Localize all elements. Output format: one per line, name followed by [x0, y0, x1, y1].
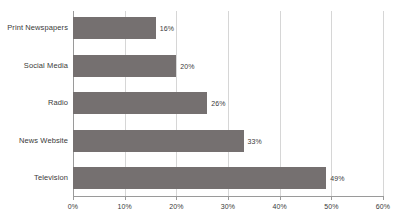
bar-row: 20%	[73, 55, 383, 77]
x-axis-tick	[331, 196, 332, 200]
bar-value-label: 16%	[160, 25, 174, 32]
bar-value-label: 33%	[248, 137, 262, 144]
bar	[73, 130, 244, 152]
bar-row: 16%	[73, 17, 383, 39]
gridline	[383, 11, 384, 196]
x-axis-tick	[383, 196, 384, 200]
bar-value-label: 49%	[330, 175, 344, 182]
category-label: Radio	[0, 98, 68, 107]
x-axis-tick	[228, 196, 229, 200]
x-axis-tick-label: 40%	[273, 203, 287, 210]
x-axis-tick-label: 60%	[376, 203, 390, 210]
bar	[73, 17, 156, 39]
category-label: Print Newspapers	[0, 23, 68, 32]
bar-row: 33%	[73, 130, 383, 152]
category-label: Social Media	[0, 61, 68, 70]
category-label: News Website	[0, 136, 68, 145]
category-label: Television	[0, 173, 68, 182]
bar-row: 26%	[73, 92, 383, 114]
x-axis-tick	[125, 196, 126, 200]
bar	[73, 92, 207, 114]
x-axis-tick-label: 50%	[324, 203, 338, 210]
bar-value-label: 20%	[180, 62, 194, 69]
bar	[73, 167, 326, 189]
x-axis-tick-label: 20%	[169, 203, 183, 210]
x-axis-tick	[280, 196, 281, 200]
x-axis-tick-label: 30%	[221, 203, 235, 210]
bar-chart: 0%10%20%30%40%50%60%16%Print Newspapers2…	[0, 0, 407, 224]
x-axis-tick	[176, 196, 177, 200]
x-axis-tick	[73, 196, 74, 200]
bar-row: 49%	[73, 167, 383, 189]
x-axis-tick-label: 10%	[118, 203, 132, 210]
bar	[73, 55, 176, 77]
x-axis-tick-label: 0%	[68, 203, 78, 210]
bar-value-label: 26%	[211, 100, 225, 107]
